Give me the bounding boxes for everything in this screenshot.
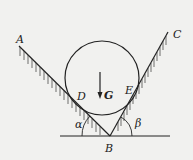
label-D: D xyxy=(76,90,86,103)
incline-ball-diagram: A C D E G α β B xyxy=(0,0,193,160)
angle-beta-arc xyxy=(121,117,132,136)
ball xyxy=(65,41,139,115)
label-G: G xyxy=(104,89,113,102)
label-beta: β xyxy=(134,117,141,130)
label-A: A xyxy=(15,33,24,46)
label-C: C xyxy=(173,28,182,41)
weight-arrow-icon xyxy=(98,72,103,99)
diagram-canvas: A C D E G α β B xyxy=(0,0,193,160)
incline-AB xyxy=(19,46,110,136)
angle-alpha-arc xyxy=(82,116,90,136)
label-alpha: α xyxy=(75,118,83,131)
label-E: E xyxy=(124,84,133,97)
hatching-AB xyxy=(20,47,100,135)
label-B: B xyxy=(104,142,113,155)
